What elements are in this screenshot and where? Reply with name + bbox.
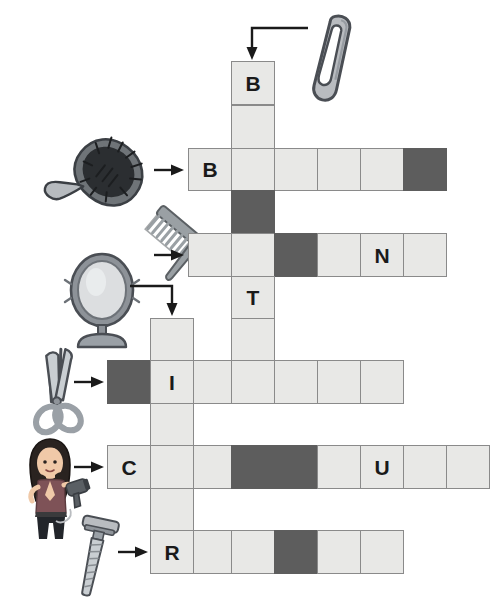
cell-r7c0 <box>107 360 151 404</box>
cell-r7c4[interactable] <box>274 360 318 404</box>
arrow-comb <box>152 245 186 265</box>
cell-r7c3[interactable] <box>231 360 275 404</box>
arrow-scissors <box>72 372 106 392</box>
cell-letter: I <box>169 372 175 393</box>
cell-r4c4 <box>274 233 318 277</box>
cell-r11c3[interactable] <box>231 530 275 574</box>
cell-r4c6[interactable]: N <box>360 233 404 277</box>
cell-letter: T <box>247 287 260 308</box>
cell-r11c4 <box>274 530 318 574</box>
cell-r9c8[interactable] <box>446 445 490 489</box>
cell-r9c5[interactable] <box>317 445 361 489</box>
cell-r4c5[interactable] <box>317 233 361 277</box>
crossword-canvas: BBNTICUR <box>0 0 497 609</box>
cell-letter: R <box>164 542 179 563</box>
cell-letter: B <box>245 73 260 94</box>
arrow-hair-clip <box>240 22 310 62</box>
cell-r11c6[interactable] <box>360 530 404 574</box>
cell-r2c4[interactable] <box>274 148 318 191</box>
cell-r2c3[interactable] <box>231 148 275 191</box>
cell-r11c1[interactable]: R <box>150 530 194 574</box>
cell-letter: C <box>121 457 136 478</box>
arrow-hair-dryer <box>72 457 106 477</box>
cell-r9c7[interactable] <box>403 445 447 489</box>
cell-letter: N <box>374 245 389 266</box>
cell-r11c5[interactable] <box>317 530 361 574</box>
cell-r2c6[interactable] <box>360 148 404 191</box>
cell-r7c6[interactable] <box>360 360 404 404</box>
cell-r9c4 <box>274 445 318 489</box>
arrow-hair-brush <box>152 160 186 180</box>
arrow-razor <box>116 542 150 562</box>
cell-r3c3 <box>231 190 275 234</box>
cell-letter: U <box>374 457 389 478</box>
cell-r4c2a[interactable] <box>188 233 232 277</box>
razor-icon <box>68 512 120 600</box>
cell-r4c7[interactable] <box>403 233 447 277</box>
cell-r7c5[interactable] <box>317 360 361 404</box>
cell-r2c2a[interactable]: B <box>188 148 232 191</box>
cell-r1c3[interactable] <box>231 105 275 149</box>
cell-r5c3[interactable]: T <box>231 276 275 319</box>
cell-r6c3[interactable] <box>231 318 275 361</box>
cell-r2c5[interactable] <box>317 148 361 191</box>
cell-r0c3[interactable]: B <box>231 61 275 105</box>
cell-r2c7 <box>403 148 447 191</box>
cell-r6c1[interactable] <box>150 318 194 361</box>
cell-r9c1[interactable] <box>150 445 194 489</box>
cell-letter: B <box>202 159 217 180</box>
cell-r9c0[interactable]: C <box>107 445 151 489</box>
cell-r9c6[interactable]: U <box>360 445 404 489</box>
cell-r10c1[interactable] <box>150 488 194 531</box>
arrow-hand-mirror <box>128 280 186 320</box>
cell-r8c1[interactable] <box>150 403 194 446</box>
cell-r7c1[interactable]: I <box>150 360 194 404</box>
cell-r4c3[interactable] <box>231 233 275 277</box>
cell-r9c3 <box>231 445 275 489</box>
